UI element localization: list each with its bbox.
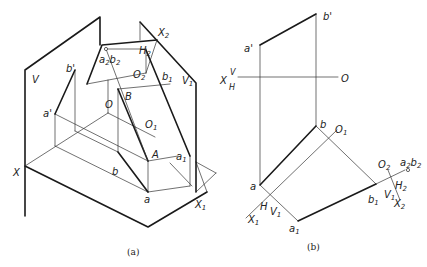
line-AB-space — [118, 89, 148, 161]
label-O: O — [341, 73, 349, 84]
label-a: a — [144, 194, 150, 205]
label-b: b — [320, 119, 326, 130]
proj-a-to-A — [55, 114, 148, 161]
label-a2b2: a2b2 — [400, 157, 422, 170]
label-O: O — [105, 99, 113, 110]
label-O2: O2 — [133, 69, 146, 82]
label-H2: H2 — [395, 180, 408, 193]
label-B: B — [125, 91, 132, 102]
proj-line-a — [55, 146, 148, 192]
label-a-prime: a' — [244, 43, 253, 54]
label-b1-prime: b1 — [162, 71, 173, 84]
label-X2: X2 — [157, 27, 170, 40]
line-a1-b1-prime — [298, 184, 376, 221]
v-plane-outline — [25, 17, 100, 216]
line-a-prime-b-prime — [260, 14, 316, 45]
line-ab — [260, 126, 316, 185]
label-a1-prime: a1 — [289, 223, 300, 236]
label-O1: O1 — [335, 124, 347, 137]
x-axis-line — [25, 113, 108, 166]
label-H2: H2 — [139, 45, 152, 58]
label-A: A — [151, 149, 159, 160]
label-V: V — [32, 74, 40, 85]
v1-plane-outline — [140, 22, 196, 192]
label-V1: V1 — [270, 206, 281, 219]
label-X1: X1 — [247, 214, 259, 227]
label-V: V — [230, 68, 236, 77]
line-a1-b1-prime — [146, 50, 190, 156]
line-a-prime-b-prime — [55, 70, 75, 114]
label-b1-prime: b1 — [368, 194, 379, 207]
a1-diag — [170, 163, 192, 186]
h-plane-edge — [196, 162, 216, 173]
label-O1: O1 — [145, 119, 157, 132]
label-O2: O2 — [378, 159, 391, 172]
a-base — [148, 186, 190, 192]
label-b-prime: b' — [66, 63, 75, 74]
caption-b: (b) — [307, 242, 320, 252]
figure-b-orthographic: b' a' X V H O b O1 a H V1 X1 a1 b1 O2 a2… — [219, 11, 422, 252]
h-plane-back-edge — [196, 162, 207, 192]
caption-a: (a) — [127, 247, 139, 257]
label-H-lower: H — [260, 201, 268, 212]
figure-a-pictorial: V V1 H2 X2 a2b2 O2 b' b1 B O a' O1 A a1 … — [12, 17, 216, 257]
label-a-prime: a' — [43, 108, 52, 119]
label-H: H — [229, 83, 235, 92]
proj-line-b — [75, 131, 118, 152]
point-a2b2 — [104, 47, 107, 50]
label-a1: a1 — [176, 151, 187, 164]
label-a2b2: a2b2 — [99, 54, 121, 67]
line-ab-horizontal — [118, 152, 148, 192]
label-b: b — [112, 166, 118, 177]
label-X: X — [219, 75, 228, 86]
label-X: X — [12, 167, 21, 178]
label-a: a — [250, 181, 256, 192]
label-b-prime: b' — [323, 11, 332, 22]
label-V1: V1 — [182, 75, 193, 88]
label-X1: X1 — [194, 199, 206, 212]
label-X2: X2 — [393, 198, 406, 211]
projection-diagram: V V1 H2 X2 a2b2 O2 b' b1 B O a' O1 A a1 … — [0, 0, 427, 267]
